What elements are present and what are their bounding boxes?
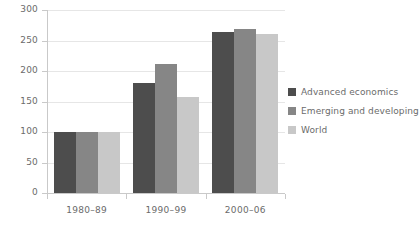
legend-swatch-icon [288,126,296,134]
bar [177,97,199,193]
legend-swatch-icon [288,107,296,115]
y-axis-line [47,10,48,194]
legend-item: World [288,120,416,139]
y-tick-label: 250 [0,35,38,45]
y-tick-mark [42,71,47,72]
x-tick-mark [126,194,127,199]
bar [234,29,256,193]
y-tick-label: 200 [0,65,38,75]
y-tick-mark [42,102,47,103]
legend-swatch-icon [288,88,296,96]
y-tick-label: 50 [0,157,38,167]
bar [133,83,155,193]
x-tick-label: 2000–06 [206,205,285,215]
y-tick-mark [42,10,47,11]
x-axis-line [47,193,285,194]
y-tick-label: 0 [0,187,38,197]
x-tick-label: 1990–99 [126,205,205,215]
gridline [47,10,285,11]
legend-item: Emerging and developing [288,101,416,120]
y-tick-label: 100 [0,126,38,136]
legend-label: World [301,125,327,135]
y-tick-label: 150 [0,96,38,106]
legend-label: Advanced economics [301,87,398,97]
x-tick-mark [206,194,207,199]
bar [155,64,177,193]
y-tick-mark [42,41,47,42]
x-tick-label: 1980–89 [47,205,126,215]
legend-item: Advanced economics [288,82,416,101]
bar [54,132,76,193]
bar [256,34,278,193]
bar [76,132,98,193]
x-tick-mark [285,194,286,199]
x-tick-mark [47,194,48,199]
bar [98,132,120,193]
y-tick-label: 300 [0,4,38,14]
bar [212,32,234,193]
y-tick-mark [42,132,47,133]
legend-label: Emerging and developing [301,106,419,116]
y-tick-mark [42,163,47,164]
legend: Advanced economicsEmerging and developin… [288,82,416,139]
